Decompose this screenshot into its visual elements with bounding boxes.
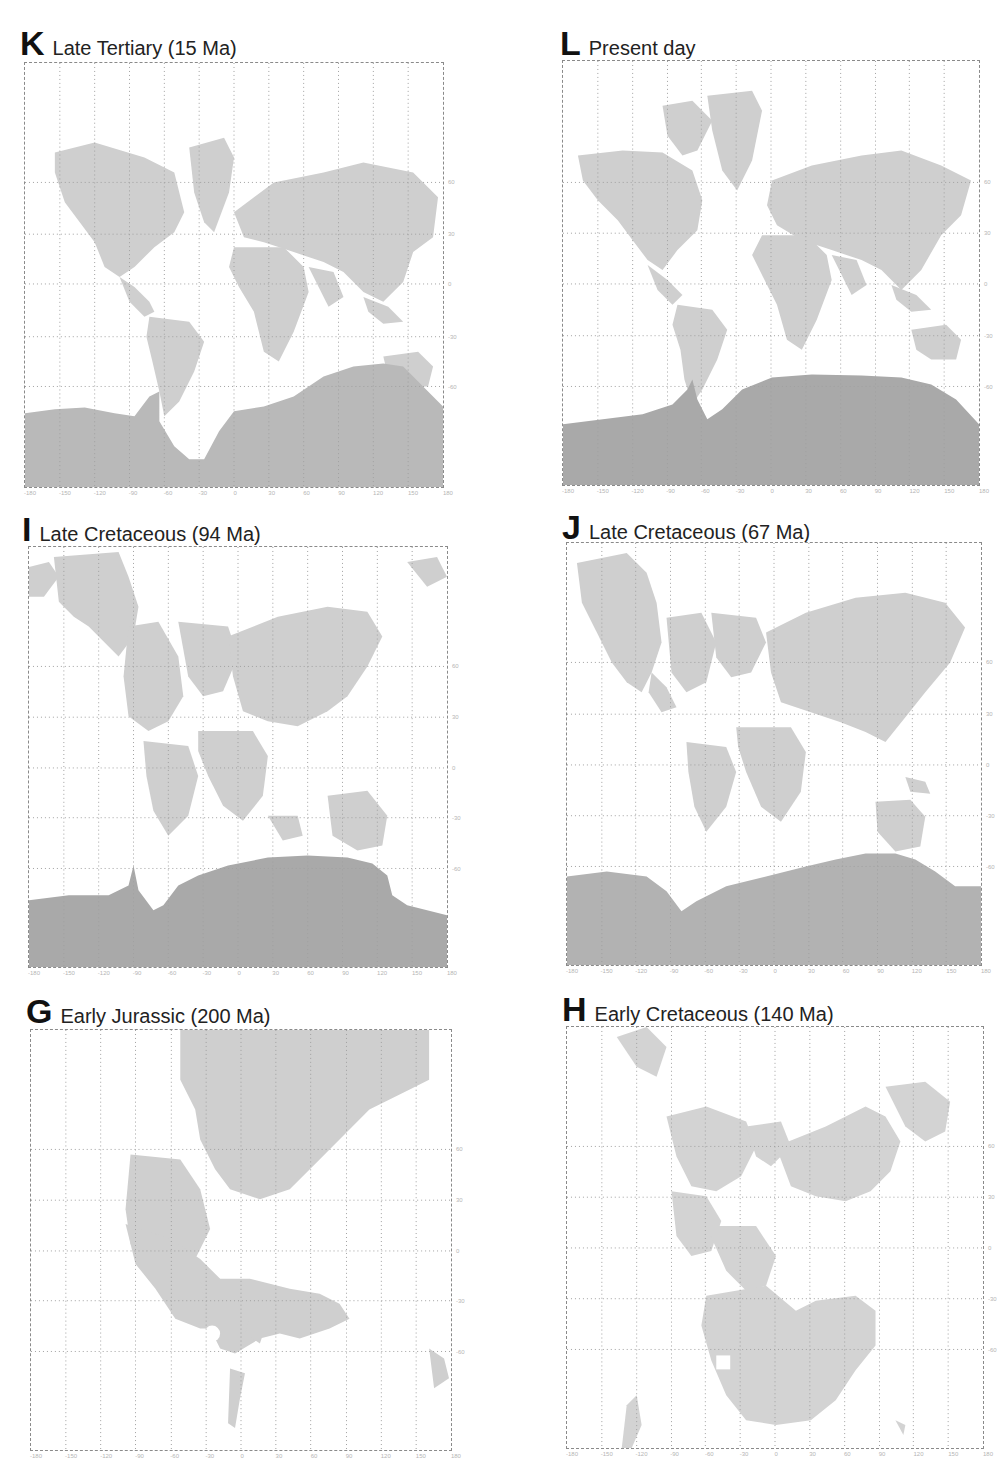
- paleomap-early-cretaceous: [566, 1026, 984, 1449]
- panel-letter: H: [562, 992, 587, 1026]
- panel-letter: L: [560, 26, 581, 60]
- paleomap-early-jurassic: [30, 1029, 452, 1451]
- longitude-axis: -180-150-120-90-60-300306090120150180: [24, 490, 444, 496]
- panel-caption: Early Jurassic (200 Ma): [60, 1006, 270, 1026]
- paleomap-late-tertiary: [24, 62, 444, 488]
- map-graphic: [31, 1030, 451, 1450]
- paleomap-late-cretaceous-67: [566, 542, 982, 966]
- map-graphic: [563, 61, 979, 485]
- panel-caption: Early Cretaceous (140 Ma): [595, 1004, 834, 1024]
- latitude-axis: 60300-30-60: [986, 542, 1004, 966]
- panel-caption: Late Cretaceous (67 Ma): [589, 522, 810, 542]
- latitude-axis: 60300-30-60: [984, 60, 1004, 486]
- panel-title: K Late Tertiary (15 Ma): [20, 26, 237, 60]
- map-graphic: [567, 543, 981, 965]
- longitude-axis: -180-150-120-90-60-300306090120150180: [566, 1451, 984, 1457]
- panel-letter: I: [22, 512, 31, 546]
- paleomap-late-cretaceous-94: [28, 546, 448, 968]
- longitude-axis: -180-150-120-90-60-300306090120150180: [562, 488, 980, 494]
- panel-title: I Late Cretaceous (94 Ma): [22, 512, 261, 546]
- panel-caption: Late Tertiary (15 Ma): [53, 38, 237, 58]
- latitude-axis: 60300-30-60: [988, 1026, 1004, 1449]
- panel-letter: G: [26, 994, 52, 1028]
- latitude-axis: 60300-30-60: [448, 62, 468, 488]
- latitude-axis: 60300-30-60: [456, 1029, 476, 1451]
- panel-title: G Early Jurassic (200 Ma): [26, 994, 271, 1028]
- panel-caption: Late Cretaceous (94 Ma): [39, 524, 260, 544]
- longitude-axis: -180-150-120-90-60-300306090120150180: [28, 970, 448, 976]
- panel-caption: Present day: [589, 38, 696, 58]
- map-graphic: [25, 63, 443, 487]
- panel-title: L Present day: [560, 26, 696, 60]
- map-graphic: [29, 547, 447, 967]
- panel-title: H Early Cretaceous (140 Ma): [562, 992, 834, 1026]
- panel-title: J Late Cretaceous (67 Ma): [562, 510, 810, 544]
- longitude-axis: -180-150-120-90-60-300306090120150180: [30, 1453, 452, 1459]
- paleomap-present-day: [562, 60, 980, 486]
- panel-letter: J: [562, 510, 581, 544]
- longitude-axis: -180-150-120-90-60-300306090120150180: [566, 968, 982, 974]
- panel-letter: K: [20, 26, 45, 60]
- latitude-axis: 60300-30-60: [452, 546, 472, 968]
- map-graphic: [567, 1027, 983, 1448]
